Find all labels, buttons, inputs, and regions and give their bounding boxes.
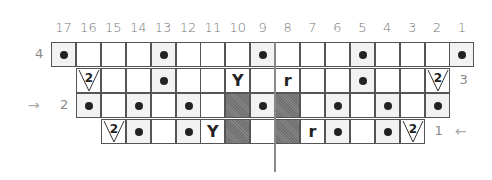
column-label: 14 bbox=[126, 20, 151, 35]
chart-cell bbox=[225, 42, 250, 67]
chart-cell bbox=[176, 93, 201, 118]
chart-cell bbox=[101, 68, 126, 93]
purl-dot-icon bbox=[135, 102, 143, 110]
chart-cell bbox=[200, 42, 225, 67]
chart-cell bbox=[225, 93, 250, 118]
chart-cell: r bbox=[300, 119, 325, 144]
chart-cell bbox=[375, 119, 400, 144]
chart-cell bbox=[101, 42, 126, 67]
chart-cell bbox=[126, 42, 151, 67]
chart-cell bbox=[449, 42, 474, 67]
chart-cell bbox=[350, 68, 375, 93]
right-cross-icon: r bbox=[301, 120, 324, 143]
chart-cell bbox=[76, 42, 101, 67]
chart-cell bbox=[101, 93, 126, 118]
purl-dot-icon bbox=[185, 102, 193, 110]
svg-text:2: 2 bbox=[408, 122, 416, 136]
chart-cell bbox=[151, 68, 176, 93]
column-label: 8 bbox=[275, 20, 300, 35]
chart-cell bbox=[275, 93, 300, 118]
svg-text:2: 2 bbox=[85, 71, 93, 85]
chart-cell: Y bbox=[200, 119, 225, 144]
purl-dot-icon bbox=[259, 102, 267, 110]
chart-cell bbox=[400, 42, 425, 67]
row-label: 3 bbox=[459, 72, 467, 87]
chart-cell: 2 bbox=[425, 68, 450, 93]
column-label: 16 bbox=[76, 20, 101, 35]
purl-dot-icon bbox=[434, 102, 442, 110]
column-label: 6 bbox=[325, 20, 350, 35]
chart-cell bbox=[151, 42, 176, 67]
chart-cell bbox=[225, 119, 250, 144]
column-label: 10 bbox=[225, 20, 250, 35]
row-label: 4 bbox=[35, 46, 43, 61]
chart-cell bbox=[176, 42, 201, 67]
purl-dot-icon bbox=[458, 51, 466, 59]
purl-dot-icon bbox=[359, 51, 367, 59]
column-label: 12 bbox=[176, 20, 201, 35]
chart-cell: r bbox=[275, 68, 300, 93]
chart-cell bbox=[275, 119, 300, 144]
chart-cell bbox=[425, 42, 450, 67]
chart-cell bbox=[350, 93, 375, 118]
purl-dot-icon bbox=[384, 102, 392, 110]
chart-cell bbox=[250, 119, 275, 144]
arrow-right-icon: → bbox=[28, 97, 40, 113]
chart-cell bbox=[250, 93, 275, 118]
center-line bbox=[274, 42, 276, 172]
column-label: 2 bbox=[425, 20, 450, 35]
left-cross-icon: Y bbox=[201, 120, 224, 143]
chart-cell bbox=[375, 68, 400, 93]
arrow-left-icon: ← bbox=[455, 123, 467, 139]
purl-dot-icon bbox=[160, 77, 168, 85]
column-label: 13 bbox=[151, 20, 176, 35]
row-label: 1 bbox=[435, 123, 443, 138]
chart-cell bbox=[176, 68, 201, 93]
chart-cell: 2 bbox=[76, 68, 101, 93]
chart-cell bbox=[176, 119, 201, 144]
chart-cell bbox=[375, 42, 400, 67]
svg-text:2: 2 bbox=[110, 122, 118, 136]
chart-cell bbox=[325, 93, 350, 118]
chart-cell bbox=[350, 42, 375, 67]
purl-dot-icon bbox=[185, 128, 193, 136]
chart-cell bbox=[325, 42, 350, 67]
row-label: 2 bbox=[60, 97, 68, 112]
chart-cell bbox=[275, 42, 300, 67]
column-label: 17 bbox=[51, 20, 76, 35]
chart-cell bbox=[51, 42, 76, 67]
chart-cell bbox=[325, 119, 350, 144]
column-label: 5 bbox=[350, 20, 375, 35]
purl-dot-icon bbox=[334, 128, 342, 136]
chart-cell bbox=[126, 119, 151, 144]
chart-cell bbox=[126, 93, 151, 118]
svg-text:2: 2 bbox=[433, 71, 441, 85]
chart-cell bbox=[300, 42, 325, 67]
chart-cell bbox=[250, 68, 275, 93]
chart-cell bbox=[151, 119, 176, 144]
purl-dot-icon bbox=[259, 51, 267, 59]
chart-cell bbox=[400, 93, 425, 118]
chart-cell: Y bbox=[225, 68, 250, 93]
purl-dot-icon bbox=[85, 102, 93, 110]
chart-cell bbox=[325, 68, 350, 93]
chart-cell bbox=[151, 93, 176, 118]
chart-cell bbox=[200, 68, 225, 93]
column-label: 1 bbox=[449, 20, 474, 35]
column-label: 7 bbox=[300, 20, 325, 35]
chart-cell: 2 bbox=[101, 119, 126, 144]
column-label: 11 bbox=[200, 20, 225, 35]
column-label: 3 bbox=[400, 20, 425, 35]
chart-cell bbox=[126, 68, 151, 93]
chart-cell bbox=[400, 68, 425, 93]
chart-cell bbox=[300, 93, 325, 118]
purl-dot-icon bbox=[135, 128, 143, 136]
chart-cell bbox=[200, 93, 225, 118]
chart-cell bbox=[76, 93, 101, 118]
chart-cell bbox=[375, 93, 400, 118]
purl-dot-icon bbox=[60, 51, 68, 59]
left-cross-icon: Y bbox=[226, 69, 249, 92]
chart-cell bbox=[250, 42, 275, 67]
column-label: 4 bbox=[375, 20, 400, 35]
purl-dot-icon bbox=[384, 128, 392, 136]
